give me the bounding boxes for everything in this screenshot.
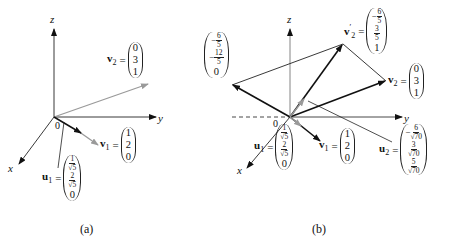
v1-label-a: v1 = 1 2 0 — [100, 127, 136, 163]
u2-matrix-b: −6√70 3√70 5√70 — [400, 124, 427, 175]
y-axis-label-b: y — [404, 113, 409, 124]
v2-label-a: v2 = 0 3 1 — [107, 42, 143, 78]
edge-proj-to-v2prime — [232, 44, 343, 85]
x-axis-label-b: x — [237, 165, 242, 176]
x-axis-label-a: x — [8, 163, 13, 174]
proj-label-b: −65 −125 0 — [204, 32, 229, 78]
v2-matrix-a: 0 3 1 — [128, 42, 143, 78]
v1-matrix-a: 1 2 0 — [121, 127, 136, 163]
v2prime-label-b: v′2 = −65 35 1 — [344, 8, 387, 54]
u1-matrix-b: 1√5 2√5 0 — [275, 124, 293, 170]
v2prime-matrix-b: −65 35 1 — [366, 8, 387, 54]
proj-matrix-b: −65 −125 0 — [204, 32, 229, 78]
u1-matrix-a: 1√5 2√5 0 — [63, 155, 81, 201]
v2-label-b: v2 = 0 3 1 — [388, 63, 424, 99]
v2-arrow-b — [290, 81, 385, 117]
z-axis-label-a: z — [50, 14, 54, 25]
z-axis-label-b: z — [287, 14, 291, 25]
v2-arrow-a — [54, 84, 148, 117]
v1-matrix-b: 1 2 0 — [340, 128, 355, 164]
origin-label-a: 0 — [55, 121, 60, 131]
proj-arrow-b — [233, 85, 290, 117]
y-axis-label-a: y — [158, 113, 163, 124]
v1-label-b: v1 = 1 2 0 — [319, 128, 355, 164]
u2-label-b: u2 = −6√70 3√70 5√70 — [379, 124, 427, 175]
u1-label-b: u1 = 1√5 2√5 0 — [254, 124, 293, 170]
u1-label-a: u1 = 1√5 2√5 0 — [42, 155, 81, 201]
v1-arrow-a-gray — [78, 131, 98, 145]
caption-b: (b) — [312, 222, 326, 237]
v2-matrix-b: 0 3 1 — [409, 63, 424, 99]
caption-a: (a) — [80, 222, 93, 237]
